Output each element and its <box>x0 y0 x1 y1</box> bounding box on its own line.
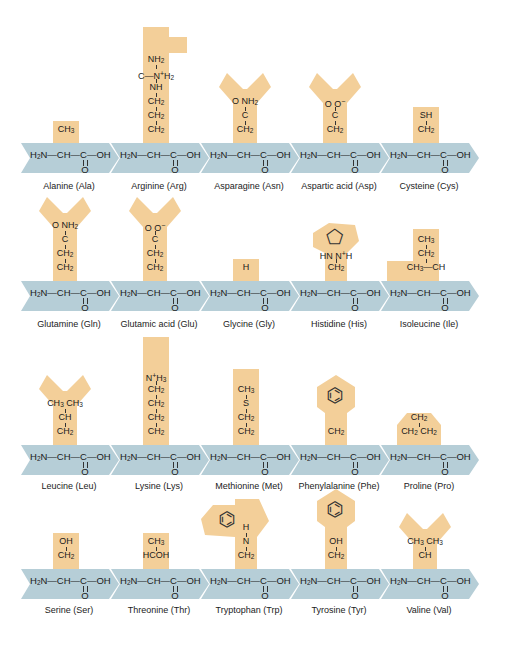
side-chain-group: CH3 <box>129 537 183 548</box>
carbonyl-oxygen: O <box>349 592 361 600</box>
carbonyl-oxygen: O <box>169 592 181 600</box>
amino-acid-tryptophan: ⌬HNCH2H2N—CH—C—OHOTryptophan (Trp) <box>201 0 297 660</box>
backbone-formula: H2N—CH—C—OH <box>390 575 471 586</box>
side-chain-group: CH2 <box>307 551 365 562</box>
side-chain-group: CH2 <box>217 551 275 562</box>
side-chain: OHCH2 <box>39 537 93 565</box>
side-chain: CH3HCOH <box>129 537 183 565</box>
amino-acid-tyrosine: ⌬OHCH2H2N—CH—C—OHOTyrosine (Tyr) <box>291 0 387 660</box>
backbone-formula: H2N—CH—C—OH <box>120 575 201 586</box>
carbonyl-oxygen: O <box>439 592 451 600</box>
amino-acid-name: Valine (Val) <box>373 605 485 615</box>
side-chain-group: CH <box>395 551 455 561</box>
amino-acid-valine: CH3 CH3CHH2N—CH—C—OHOValine (Val) <box>381 0 477 660</box>
side-chain-group: N <box>217 537 275 547</box>
side-chain-group: HCOH <box>129 551 183 561</box>
backbone-formula: H2N—CH—C—OH <box>210 575 291 586</box>
side-chain: HNCH2 <box>217 523 275 565</box>
carbonyl-oxygen: O <box>79 592 91 600</box>
side-chain-group: OH <box>39 537 93 547</box>
side-chain: OHCH2 <box>307 537 365 565</box>
carbonyl-oxygen: O <box>259 592 271 600</box>
side-chain-group: CH3 CH3 <box>395 537 455 548</box>
side-chain-group: H <box>217 523 275 533</box>
amino-acid-serine: OHCH2H2N—CH—C—OHOSerine (Ser) <box>21 0 117 660</box>
backbone-formula: H2N—CH—C—OH <box>30 575 111 586</box>
backbone-formula: H2N—CH—C—OH <box>300 575 381 586</box>
side-chain: CH3 CH3CH <box>395 537 455 565</box>
amino-acid-threonine: CH3HCOHH2N—CH—C—OHOThreonine (Thr) <box>111 0 207 660</box>
phenol-ring-icon: ⌬ <box>326 499 343 519</box>
side-chain-group: CH2 <box>39 551 93 562</box>
side-chain-group: OH <box>307 537 365 547</box>
